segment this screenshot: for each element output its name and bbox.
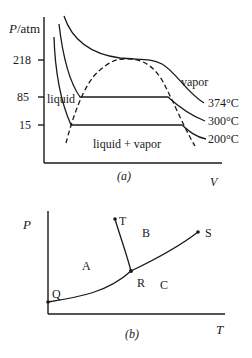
region-label-vapor: vapor <box>181 75 208 89</box>
point-Q <box>46 300 50 304</box>
point-R <box>129 269 133 273</box>
isotherm-label-374C: 374°C <box>208 96 239 110</box>
region-B: B <box>142 226 150 240</box>
label-T: T <box>119 214 127 228</box>
isotherm-label-300C: 300°C <box>208 114 239 128</box>
label-R: R <box>137 276 145 290</box>
label-S: S <box>205 226 212 240</box>
point-S <box>196 230 200 234</box>
label-Q: Q <box>52 287 61 301</box>
y-axis-label-a: P/atm <box>8 21 40 36</box>
figure-b-phase-diagram: P T Q R S T A B C (b) <box>22 211 225 341</box>
x-axis-label-b: T <box>216 322 224 337</box>
pv-and-phase-diagrams: P/atm 218 85 15 liquid liquid + vapor va… <box>0 0 252 358</box>
tick-label-218: 218 <box>13 53 31 67</box>
tick-label-15: 15 <box>19 118 31 132</box>
region-label-liquid-vapor: liquid + vapor <box>93 137 161 151</box>
region-A: A <box>82 259 91 273</box>
region-label-liquid: liquid <box>47 92 75 106</box>
caption-b: (b) <box>125 327 139 341</box>
isotherm-label-200C: 200°C <box>208 132 239 146</box>
caption-a: (a) <box>117 169 131 183</box>
point-T <box>113 217 117 221</box>
x-axis-label-a: V <box>210 175 219 189</box>
isotherm-300C <box>59 24 205 121</box>
coexistence-dome <box>66 59 195 146</box>
tick-label-85: 85 <box>17 90 29 104</box>
region-C: C <box>160 278 168 292</box>
figure-a-pv-diagram: P/atm 218 85 15 liquid liquid + vapor va… <box>8 16 239 189</box>
y-axis-label-b: P <box>22 217 31 232</box>
